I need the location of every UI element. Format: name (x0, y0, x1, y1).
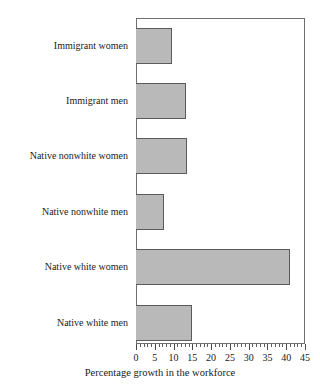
x-tick-minor (271, 344, 272, 347)
x-tick-minor (234, 344, 235, 347)
x-tick-label: 15 (187, 352, 197, 363)
x-tick-minor (260, 344, 261, 347)
x-tick-major (267, 344, 268, 350)
bar (136, 249, 290, 285)
x-tick-minor (144, 344, 145, 347)
x-tick-label: 45 (300, 352, 310, 363)
x-tick-major (136, 344, 137, 350)
x-tick-minor (282, 344, 283, 347)
x-tick-label: 35 (262, 352, 272, 363)
category-label: Native nonwhite women (0, 150, 128, 162)
bar (136, 305, 192, 341)
bar-row (136, 83, 186, 119)
x-tick-minor (166, 344, 167, 347)
x-tick-label: 10 (169, 352, 179, 363)
x-tick-minor (252, 344, 253, 347)
x-tick-minor (185, 344, 186, 347)
x-tick-minor (301, 344, 302, 347)
x-tick-minor (226, 344, 227, 347)
x-tick-label: 20 (206, 352, 216, 363)
x-tick-minor (215, 344, 216, 347)
x-tick-minor (294, 344, 295, 347)
x-tick-minor (196, 344, 197, 347)
x-tick-minor (189, 344, 190, 347)
x-tick-major (174, 344, 175, 350)
x-tick-minor (237, 344, 238, 347)
chart-page: Immigrant womenImmigrant menNative nonwh… (0, 0, 320, 391)
x-tick-minor (204, 344, 205, 347)
x-axis-tick-marks (136, 344, 305, 352)
plot-frame (136, 18, 305, 344)
category-label: Native nonwhite men (0, 206, 128, 218)
bar-row (136, 138, 187, 174)
x-axis-title: Percentage growth in the workforce (0, 367, 320, 378)
x-tick-minor (170, 344, 171, 347)
x-tick-major (155, 344, 156, 350)
x-tick-minor (181, 344, 182, 347)
bar (136, 194, 164, 230)
x-tick-label: 25 (225, 352, 235, 363)
x-tick-minor (290, 344, 291, 347)
x-tick-minor (297, 344, 298, 347)
bar-row (136, 249, 290, 285)
x-tick-minor (177, 344, 178, 347)
x-tick-label: 5 (152, 352, 157, 363)
x-tick-minor (140, 344, 141, 347)
x-tick-major (286, 344, 287, 350)
category-label: Native white women (0, 261, 128, 273)
x-tick-major (305, 344, 306, 350)
x-tick-major (192, 344, 193, 350)
x-tick-major (211, 344, 212, 350)
x-tick-minor (279, 344, 280, 347)
category-label: Immigrant men (0, 95, 128, 107)
x-tick-minor (147, 344, 148, 347)
x-tick-label: 40 (281, 352, 291, 363)
x-tick-minor (151, 344, 152, 347)
x-tick-minor (256, 344, 257, 347)
x-tick-label: 0 (134, 352, 139, 363)
x-tick-minor (245, 344, 246, 347)
bar (136, 138, 187, 174)
x-tick-major (249, 344, 250, 350)
x-tick-minor (222, 344, 223, 347)
x-tick-minor (275, 344, 276, 347)
category-label: Native white men (0, 317, 128, 329)
x-axis-tick-labels: 051015202530354045 (0, 352, 320, 366)
x-tick-major (230, 344, 231, 350)
bar-row (136, 305, 192, 341)
category-label: Immigrant women (0, 40, 128, 52)
x-tick-minor (219, 344, 220, 347)
x-tick-label: 30 (244, 352, 254, 363)
bar (136, 28, 172, 64)
x-tick-minor (264, 344, 265, 347)
bar-row (136, 194, 164, 230)
bar-row (136, 28, 172, 64)
x-tick-minor (162, 344, 163, 347)
x-tick-minor (207, 344, 208, 347)
bar (136, 83, 186, 119)
x-tick-minor (200, 344, 201, 347)
x-tick-minor (159, 344, 160, 347)
x-tick-minor (241, 344, 242, 347)
